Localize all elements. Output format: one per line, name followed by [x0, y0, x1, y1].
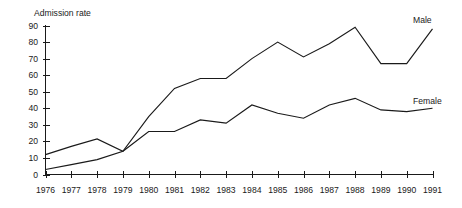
x-tick-label: 1978	[88, 185, 107, 195]
series-line-female	[46, 98, 433, 154]
y-axis-title: Admission rate	[34, 8, 91, 18]
x-axis-tick-labels: 1976197719781979198019811982198319841985…	[36, 185, 442, 195]
x-tick-label: 1984	[242, 185, 261, 195]
series-line-male	[46, 27, 433, 169]
x-tick-label: 1979	[113, 185, 132, 195]
y-tick-label: 70	[28, 54, 38, 64]
y-tick-label: 50	[28, 87, 38, 97]
y-axis-tick-labels: 0102030405060708090	[28, 21, 38, 180]
y-tick-label: 20	[28, 136, 38, 146]
x-tick-label: 1981	[165, 185, 184, 195]
x-tick-label: 1976	[36, 185, 55, 195]
series-label-male: Male	[413, 15, 432, 25]
y-tick-label: 60	[28, 70, 38, 80]
x-tick-label: 1991	[423, 185, 442, 195]
chart-canvas: Admission rate 0102030405060708090 19761…	[0, 0, 462, 208]
x-tick-label: 1989	[371, 185, 390, 195]
y-tick-label: 30	[28, 120, 38, 130]
x-tick-label: 1987	[320, 185, 339, 195]
admission-rate-chart: Admission rate 0102030405060708090 19761…	[0, 0, 462, 208]
x-tick-label: 1990	[397, 185, 416, 195]
y-tick-label: 90	[28, 21, 38, 31]
y-tick-label: 0	[33, 170, 38, 180]
x-tick-label: 1988	[346, 185, 365, 195]
x-tick-label: 1985	[268, 185, 287, 195]
series-label-female: Female	[413, 96, 442, 106]
y-tick-label: 40	[28, 103, 38, 113]
x-tick-label: 1980	[139, 185, 158, 195]
x-tick-label: 1982	[191, 185, 210, 195]
x-tick-label: 1986	[294, 185, 313, 195]
x-tick-label: 1983	[217, 185, 236, 195]
y-tick-label: 10	[28, 153, 38, 163]
x-tick-label: 1977	[62, 185, 81, 195]
y-tick-label: 80	[28, 37, 38, 47]
